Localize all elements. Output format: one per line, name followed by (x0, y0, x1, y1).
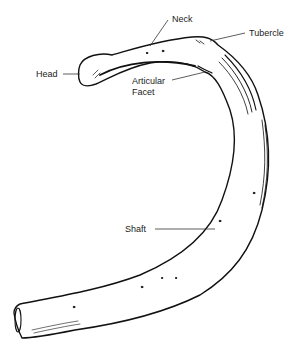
label-head: Head (36, 69, 58, 79)
tubercle-leader (210, 33, 245, 41)
label-neck: Neck (172, 14, 193, 24)
rib-illustration (0, 0, 298, 349)
label-shaft: Shaft (125, 224, 146, 234)
label-articular-facet-line2: Facet (132, 87, 155, 97)
label-tubercle: Tubercle (249, 28, 284, 38)
label-articular-facet-line1: Articular (132, 76, 165, 86)
articular-facet-leader (172, 72, 205, 80)
